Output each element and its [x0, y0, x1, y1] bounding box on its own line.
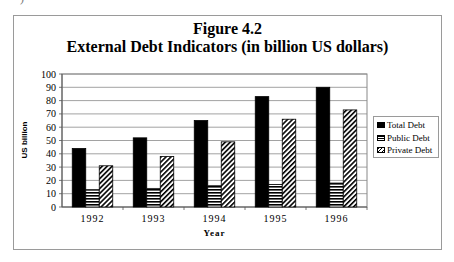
x-tick-label: 1995 [264, 213, 288, 224]
legend-swatch-solid [377, 122, 385, 128]
bar-private-debt-1994 [221, 142, 235, 207]
bar-total-debt-1994 [194, 121, 208, 207]
bar-total-debt-1993 [133, 138, 147, 207]
y-tick-label: 0 [51, 202, 56, 213]
bar-public-debt-1994 [208, 186, 222, 207]
x-tick-label: 1996 [325, 213, 349, 224]
legend-swatch-diagonal-stripes [377, 147, 385, 153]
y-tick-label: 50 [46, 135, 56, 146]
y-tick-label: 30 [46, 162, 56, 173]
y-tick-label: 90 [46, 82, 56, 93]
legend: Total Debt Public Debt Private Debt [373, 116, 439, 158]
legend-item-total-debt: Total Debt [377, 119, 438, 132]
x-tick-label: 1994 [203, 213, 227, 224]
bar-public-debt-1996 [330, 183, 344, 207]
y-tick-label: 60 [46, 122, 56, 133]
y-tick-label: 20 [46, 175, 56, 186]
y-tick-label: 70 [46, 108, 56, 119]
bar-public-debt-1993 [147, 188, 161, 207]
y-tick-label: 10 [46, 188, 56, 199]
x-tick-label: 1992 [81, 213, 105, 224]
y-tick-label: 80 [46, 95, 56, 106]
x-axis-ticks: 19921993199419951996 [81, 207, 368, 224]
bar-total-debt-1995 [255, 97, 269, 207]
bar-private-debt-1992 [99, 166, 113, 207]
bar-public-debt-1992 [86, 190, 100, 207]
bar-private-debt-1993 [160, 156, 174, 207]
legend-swatch-horizontal-stripes [377, 135, 385, 141]
legend-item-public-debt: Public Debt [377, 132, 438, 145]
bar-private-debt-1995 [282, 119, 296, 207]
x-tick-label: 1993 [142, 213, 166, 224]
y-tick-label: 40 [46, 148, 56, 159]
bar-public-debt-1995 [269, 184, 283, 207]
legend-item-private-debt: Private Debt [377, 144, 438, 157]
y-tick-label: 100 [41, 69, 56, 80]
bar-private-debt-1996 [343, 110, 357, 207]
bar-total-debt-1996 [316, 87, 330, 207]
bar-total-debt-1992 [72, 148, 86, 207]
